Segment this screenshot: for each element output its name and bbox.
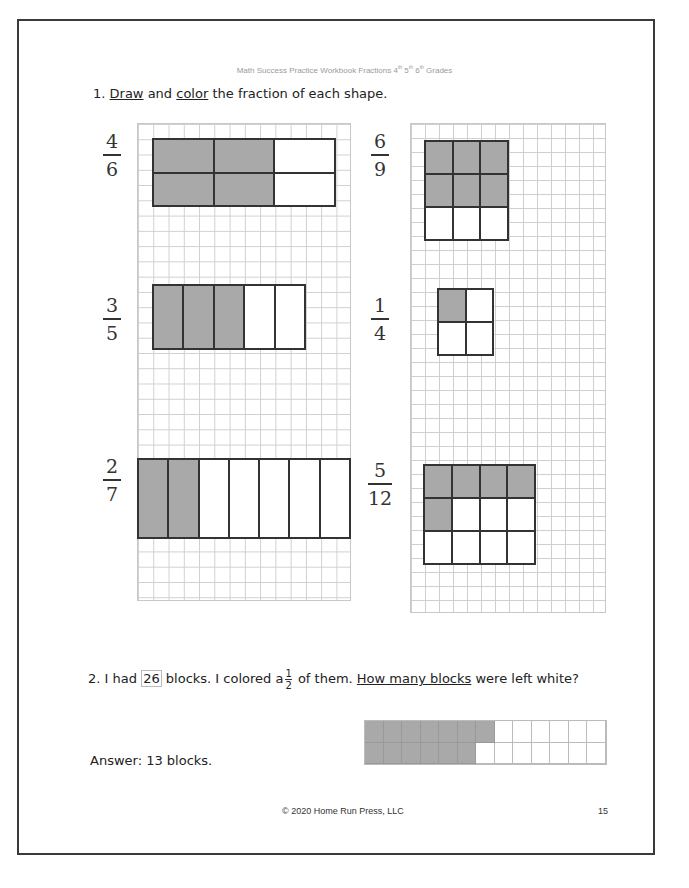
shape-cell[interactable] <box>453 499 479 530</box>
block-cell[interactable] <box>365 721 384 743</box>
shape-cell[interactable] <box>169 460 197 537</box>
block-cell[interactable] <box>495 743 514 765</box>
block-cell[interactable] <box>402 721 421 743</box>
shape-cell[interactable] <box>453 532 479 563</box>
shape-cell[interactable] <box>508 532 534 563</box>
shape-cell[interactable] <box>425 532 451 563</box>
shape-cell[interactable] <box>508 499 534 530</box>
block-cell[interactable] <box>513 721 532 743</box>
block-cell[interactable] <box>513 743 532 765</box>
fraction-shape-2-7[interactable] <box>137 458 351 539</box>
answer-text: Answer: 13 blocks. <box>90 753 212 768</box>
fraction-shape-1-4[interactable] <box>437 288 494 356</box>
block-cell[interactable] <box>587 743 606 765</box>
blocks-grid[interactable] <box>364 720 607 765</box>
shape-cell[interactable] <box>321 460 349 537</box>
shape-cell[interactable] <box>290 460 318 537</box>
shape-cell[interactable] <box>139 460 167 537</box>
shape-cell[interactable] <box>154 286 182 348</box>
block-cell[interactable] <box>458 743 477 765</box>
color-word: color <box>176 86 208 101</box>
shape-cell[interactable] <box>425 466 451 497</box>
shape-cell[interactable] <box>275 140 334 172</box>
fraction-label-6-9: 69 <box>365 130 395 180</box>
block-cell[interactable] <box>569 721 588 743</box>
grade-5: 5th <box>404 66 413 75</box>
block-cell[interactable] <box>569 743 588 765</box>
shape-cell[interactable] <box>275 174 334 206</box>
block-cell[interactable] <box>421 743 440 765</box>
block-cell[interactable] <box>550 721 569 743</box>
shape-cell[interactable] <box>200 460 228 537</box>
page-header: Math Success Practice Workbook Fractions… <box>0 64 689 75</box>
shape-cell[interactable] <box>454 208 480 239</box>
block-cell[interactable] <box>532 743 551 765</box>
fraction-shape-4-6[interactable] <box>152 138 336 207</box>
block-cell[interactable] <box>384 743 403 765</box>
draw-word: Draw <box>110 86 144 101</box>
shape-cell[interactable] <box>245 286 273 348</box>
grade-4: 4th <box>394 66 403 75</box>
shape-cell[interactable] <box>426 175 452 206</box>
fraction-shape-5-12[interactable] <box>423 464 536 565</box>
shape-cell[interactable] <box>215 140 274 172</box>
shape-cell[interactable] <box>481 532 507 563</box>
fraction-label-4-6: 46 <box>97 130 127 180</box>
shape-cell[interactable] <box>467 290 493 321</box>
block-cell[interactable] <box>421 721 440 743</box>
fraction-label-5-12: 512 <box>362 459 398 509</box>
fraction-label-3-5: 35 <box>97 294 127 344</box>
shape-cell[interactable] <box>439 323 465 354</box>
shape-cell[interactable] <box>215 174 274 206</box>
one-half-fraction: 12 <box>285 668 291 691</box>
fraction-shape-6-9[interactable] <box>424 140 509 241</box>
block-cell[interactable] <box>495 721 514 743</box>
shape-cell[interactable] <box>215 286 243 348</box>
shape-cell[interactable] <box>454 142 480 173</box>
shape-cell[interactable] <box>425 499 451 530</box>
shape-cell[interactable] <box>184 286 212 348</box>
block-cell[interactable] <box>439 721 458 743</box>
shape-cell[interactable] <box>454 175 480 206</box>
fraction-label-1-4: 14 <box>365 294 395 344</box>
shape-cell[interactable] <box>439 290 465 321</box>
shape-cell[interactable] <box>260 460 288 537</box>
shape-cell[interactable] <box>154 140 213 172</box>
shape-cell[interactable] <box>481 466 507 497</box>
block-cell[interactable] <box>587 721 606 743</box>
grades-label: Grades <box>426 66 452 75</box>
block-cell[interactable] <box>550 743 569 765</box>
question-2-prompt: 2. I had 26 blocks. I colored a12 of the… <box>88 668 579 691</box>
block-cell[interactable] <box>365 743 384 765</box>
shape-cell[interactable] <box>467 323 493 354</box>
grade-6: 6th <box>415 66 424 75</box>
block-cell[interactable] <box>384 721 403 743</box>
shape-cell[interactable] <box>481 208 507 239</box>
shape-cell[interactable] <box>154 174 213 206</box>
shape-cell[interactable] <box>426 142 452 173</box>
block-cell[interactable] <box>402 743 421 765</box>
total-blocks-value: 26 <box>141 670 162 687</box>
shape-cell[interactable] <box>508 466 534 497</box>
shape-cell[interactable] <box>481 175 507 206</box>
page-number: 15 <box>598 806 608 816</box>
how-many-blocks-phrase: How many blocks <box>357 671 471 686</box>
shape-cell[interactable] <box>230 460 258 537</box>
block-cell[interactable] <box>532 721 551 743</box>
copyright-footer: © 2020 Home Run Press, LLC <box>282 806 404 816</box>
fraction-label-2-7: 27 <box>97 455 127 505</box>
block-cell[interactable] <box>476 743 495 765</box>
block-cell[interactable] <box>458 721 477 743</box>
shape-cell[interactable] <box>481 142 507 173</box>
block-cell[interactable] <box>439 743 458 765</box>
question-1-prompt: 1. Draw and color the fraction of each s… <box>93 86 387 101</box>
shape-cell[interactable] <box>276 286 304 348</box>
shape-cell[interactable] <box>426 208 452 239</box>
shape-cell[interactable] <box>481 499 507 530</box>
fraction-shape-3-5[interactable] <box>152 284 306 350</box>
block-cell[interactable] <box>476 721 495 743</box>
header-title: Math Success Practice Workbook Fractions <box>237 66 392 75</box>
shape-cell[interactable] <box>453 466 479 497</box>
